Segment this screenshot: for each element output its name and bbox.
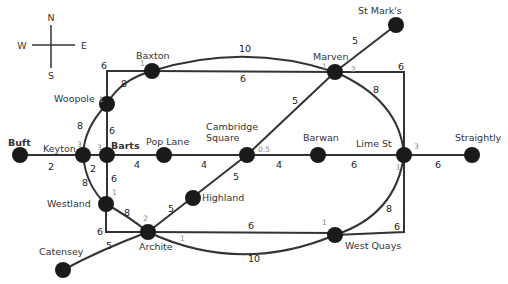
penalty-marven-1: 1: [322, 62, 327, 71]
station-label-catensey: Catensey: [39, 246, 84, 257]
weight-marven-corner: 6: [398, 61, 404, 72]
edge-archite-westquays-arc: [148, 232, 335, 254]
penalty-archite-2: 1: [180, 234, 185, 243]
penalty-woopole: 1: [99, 95, 104, 104]
edge-marven-stmarks: [335, 25, 396, 72]
weight-marven-cambridge: 5: [292, 95, 298, 106]
station-node-highland[interactable]: [185, 190, 201, 206]
weight-highland-archite: 5: [168, 203, 174, 214]
station-label-barwan: Barwan: [303, 132, 339, 143]
station-label-woopole: Woopole: [54, 93, 95, 104]
station-label-cambridge-line2: Square: [206, 132, 240, 143]
compass-east-label: E: [81, 40, 87, 51]
weight-baxton-marven-arc: 10: [239, 43, 251, 54]
network-diagram: N S W E: [0, 0, 508, 284]
weight-keyton-westland-curve: 8: [82, 177, 88, 188]
penalty-lime-st-2: 1: [396, 163, 401, 172]
station-label-highland: Highland: [202, 192, 244, 203]
station-node-lime-st[interactable]: [396, 147, 412, 163]
station-node-pop-lane[interactable]: [156, 147, 172, 163]
weight-woopole-corner: 6: [101, 60, 107, 71]
weight-woopole-barts: 6: [109, 125, 115, 136]
station-node-westland[interactable]: [98, 196, 114, 212]
station-node-barwan[interactable]: [310, 147, 326, 163]
penalty-lime-st-1: 3: [414, 142, 419, 151]
penalty-cambridge: 0.5: [258, 145, 270, 154]
weight-westquays-limest-curve: 8: [386, 203, 392, 214]
station-label-barts: Barts: [111, 140, 140, 151]
weight-keyton-westland-inner: 2: [90, 163, 96, 174]
weight-westland-corner: 6: [97, 226, 103, 237]
station-node-west-quays[interactable]: [327, 227, 343, 243]
weight-marven-limest-curve: 8: [373, 84, 379, 95]
station-label-st-marks: St Mark's: [358, 5, 402, 16]
weight-barwan-limest: 6: [351, 159, 357, 170]
station-node-straightly[interactable]: [464, 147, 480, 163]
penalty-marven-2: 2: [351, 65, 356, 74]
weight-barts-poplane: 4: [134, 159, 140, 170]
weight-cambridge-barwan: 4: [276, 159, 282, 170]
station-node-archite[interactable]: [140, 224, 156, 240]
station-node-baxton[interactable]: [144, 63, 160, 79]
weight-barts-westland: 6: [111, 173, 117, 184]
station-label-pop-lane: Pop Lane: [146, 136, 189, 147]
weight-buft-keyton: 2: [48, 161, 54, 172]
weight-westland-archite: 8: [124, 207, 130, 218]
penalty-baxton: 1: [140, 59, 145, 68]
penalty-barts: 3: [97, 143, 102, 152]
station-node-marven[interactable]: [327, 64, 343, 80]
station-label-cambridge-line1: Cambridge: [206, 121, 258, 132]
weight-archite-westquays: 6: [248, 220, 254, 231]
weight-cambridge-highland: 5: [233, 171, 239, 182]
compass-west-label: W: [17, 40, 27, 51]
weight-marven-stmarks: 5: [352, 35, 358, 46]
station-label-buft: Buft: [8, 137, 31, 148]
penalty-keyton: 3: [77, 140, 82, 149]
edge-baxton-woopole-curve: [107, 71, 152, 104]
station-label-lime-st: Lime St: [356, 138, 392, 149]
station-label-westland: Westland: [47, 198, 91, 209]
penalty-westland: 1: [112, 188, 117, 197]
station-label-keyton: Keyton: [43, 143, 76, 154]
station-label-marven: Marven: [313, 51, 348, 62]
weight-limest-straightly: 6: [435, 159, 441, 170]
station-label-archite: Archite: [139, 241, 173, 252]
weight-woopole-baxton: 8: [121, 78, 127, 89]
compass-rose-icon: N S W E: [17, 12, 87, 81]
station-node-st-marks[interactable]: [388, 17, 404, 33]
compass-north-label: N: [47, 12, 54, 23]
edge-baxton-marven-arc: [152, 57, 335, 72]
station-node-buft[interactable]: [12, 147, 28, 163]
weight-westquays-corner: 6: [394, 221, 400, 232]
weight-baxton-marven-straight: 6: [240, 73, 246, 84]
compass-south-label: S: [48, 70, 54, 81]
weight-archite-westquays-arc: 10: [248, 253, 260, 264]
weight-woopole-keyton: 8: [77, 120, 83, 131]
station-node-cambridge-square[interactable]: [239, 147, 255, 163]
weight-archite-catensey: 5: [106, 240, 112, 251]
station-label-straightly: Straightly: [455, 132, 502, 143]
station-label-west-quays: West Quays: [345, 240, 401, 251]
penalty-archite-1: 2: [143, 214, 148, 223]
station-node-catensey[interactable]: [55, 262, 71, 278]
weight-poplane-cambridge: 4: [201, 159, 207, 170]
edge-woopole-baxton-corner: [107, 71, 152, 104]
penalty-west-quays: 1: [322, 218, 327, 227]
station-node-keyton[interactable]: [75, 147, 91, 163]
edge-archite-westquays: [148, 232, 335, 233]
edge-woopole-keyton-curve: [83, 104, 107, 155]
edge-baxton-marven-straight: [152, 71, 335, 72]
